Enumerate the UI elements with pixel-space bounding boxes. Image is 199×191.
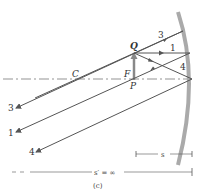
- caption: (c): [93, 182, 103, 190]
- label-f: F: [123, 69, 131, 79]
- out-label-3: 3: [8, 103, 14, 113]
- ray-label-1: 1: [170, 43, 176, 53]
- ray-4-reflected: [36, 79, 192, 152]
- label-c: C: [72, 69, 79, 79]
- concave-mirror-ray-diagram: Q P F C 3 1 4 3 1 4 s s′ = ∞ (c): [0, 0, 199, 191]
- out-label-4: 4: [29, 147, 35, 157]
- ray-3-reflected: [16, 31, 183, 108]
- label-s-prime: s′ = ∞: [94, 169, 115, 177]
- label-p: P: [129, 81, 137, 91]
- ray-label-4: 4: [180, 62, 186, 72]
- out-label-1: 1: [8, 128, 14, 138]
- concave-mirror: [178, 12, 189, 165]
- label-q: Q: [130, 41, 138, 51]
- label-s: s: [161, 151, 165, 159]
- ray-label-3: 3: [158, 30, 164, 40]
